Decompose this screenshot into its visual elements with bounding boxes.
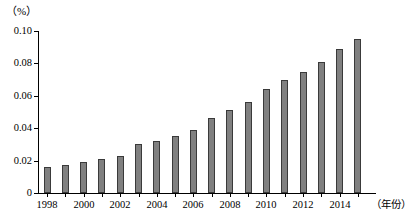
x-axis-tick xyxy=(84,193,85,197)
bar xyxy=(300,72,307,194)
x-axis-tick-label: 2004 xyxy=(147,200,168,211)
bar xyxy=(98,159,105,193)
x-axis-tick-label: 2014 xyxy=(330,200,351,211)
x-axis-tick xyxy=(193,193,194,197)
y-axis-tick-label: 0.06 xyxy=(14,91,32,102)
bar xyxy=(117,156,124,193)
y-axis-tick-label: 0 xyxy=(27,188,32,199)
x-axis-tick xyxy=(303,193,304,197)
x-axis-tick xyxy=(358,193,359,197)
x-axis-tick xyxy=(175,193,176,197)
y-axis-tick-label: 0.02 xyxy=(14,155,32,166)
y-axis-tick xyxy=(34,31,38,32)
x-axis-tick-label: 2000 xyxy=(74,200,95,211)
x-axis-tick xyxy=(248,193,249,197)
x-axis-tick xyxy=(157,193,158,197)
x-axis-tick xyxy=(230,193,231,197)
y-axis-tick-label: 0.10 xyxy=(14,26,32,37)
bar-chart-figure: （%） 00.020.040.060.080.10 19982000200220… xyxy=(0,0,413,223)
x-axis-tick xyxy=(340,193,341,197)
x-axis-tick-label: 2002 xyxy=(110,200,131,211)
x-axis-tick xyxy=(212,193,213,197)
x-axis-tick xyxy=(285,193,286,197)
x-axis-tick-label: 2006 xyxy=(183,200,204,211)
y-axis-tick-label: 0.04 xyxy=(14,123,32,134)
bar xyxy=(208,118,215,193)
y-axis-tick-label: 0.08 xyxy=(14,58,32,69)
bar xyxy=(190,130,197,193)
x-axis-line xyxy=(38,193,376,194)
x-axis-tick xyxy=(139,193,140,197)
bar xyxy=(336,49,343,193)
bar xyxy=(318,62,325,193)
bar xyxy=(80,162,87,193)
bar xyxy=(354,39,361,193)
x-axis-tick xyxy=(65,193,66,197)
bar xyxy=(172,136,179,193)
y-axis-tick xyxy=(34,63,38,64)
bar xyxy=(281,80,288,193)
x-axis-tick-label: 2010 xyxy=(256,200,277,211)
bar xyxy=(226,110,233,193)
y-axis-unit-label: （%） xyxy=(6,2,37,18)
x-axis-tick xyxy=(47,193,48,197)
y-axis-tick xyxy=(34,96,38,97)
x-axis-tick-label: 2008 xyxy=(220,200,241,211)
bar xyxy=(245,102,252,193)
y-axis-tick xyxy=(34,193,38,194)
bar xyxy=(135,144,142,193)
bar xyxy=(153,141,160,193)
x-axis-tick xyxy=(120,193,121,197)
x-axis-tick xyxy=(266,193,267,197)
bar xyxy=(44,167,51,193)
x-axis-tick xyxy=(102,193,103,197)
bar xyxy=(263,89,270,193)
y-axis-tick xyxy=(34,128,38,129)
bar xyxy=(62,165,69,193)
x-axis-title: （年份） xyxy=(371,200,411,211)
x-axis-tick xyxy=(321,193,322,197)
x-axis-tick-label: 1998 xyxy=(37,200,58,211)
x-axis-tick-label: 2012 xyxy=(293,200,314,211)
y-axis-tick xyxy=(34,161,38,162)
